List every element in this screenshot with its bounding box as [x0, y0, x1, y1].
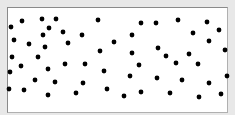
- data-point: [155, 76, 160, 81]
- data-point: [27, 42, 32, 47]
- data-point: [223, 48, 228, 53]
- data-point: [43, 45, 48, 50]
- data-point: [33, 78, 38, 83]
- data-point: [46, 67, 51, 72]
- data-point: [19, 64, 24, 69]
- data-point: [176, 18, 181, 23]
- data-point: [54, 17, 59, 22]
- data-point: [180, 78, 185, 83]
- data-point: [8, 70, 13, 75]
- data-point: [168, 91, 173, 96]
- data-point: [197, 95, 202, 100]
- data-point: [130, 51, 135, 56]
- data-point: [105, 87, 110, 92]
- data-point: [130, 33, 135, 38]
- data-point: [36, 55, 41, 60]
- data-point: [83, 62, 88, 67]
- data-point: [10, 55, 15, 60]
- data-point: [137, 63, 142, 68]
- data-point: [139, 21, 144, 26]
- data-point: [61, 30, 66, 35]
- data-point: [154, 21, 159, 26]
- data-point: [63, 62, 68, 67]
- data-point: [40, 17, 45, 22]
- data-point: [128, 74, 133, 79]
- data-point: [139, 90, 144, 95]
- data-point: [96, 18, 101, 23]
- data-point: [80, 33, 85, 38]
- data-point: [102, 69, 107, 74]
- data-point: [98, 49, 103, 54]
- data-point: [164, 54, 169, 59]
- data-point: [196, 62, 201, 67]
- data-point: [53, 80, 58, 85]
- data-point: [12, 38, 17, 43]
- data-point: [47, 26, 52, 31]
- data-point: [207, 81, 212, 86]
- data-point: [9, 25, 14, 30]
- data-point: [225, 74, 230, 79]
- data-point: [41, 33, 46, 38]
- data-point: [191, 31, 196, 36]
- data-point: [207, 39, 212, 44]
- data-point: [66, 41, 71, 46]
- scatter-plot: [0, 0, 235, 115]
- data-point: [156, 46, 161, 51]
- data-point: [112, 40, 117, 45]
- data-point: [217, 28, 222, 33]
- data-point: [122, 94, 127, 99]
- data-point: [81, 81, 86, 86]
- data-point: [7, 87, 12, 92]
- data-point: [22, 88, 27, 93]
- data-point: [219, 92, 224, 97]
- data-point: [74, 91, 79, 96]
- data-point: [46, 93, 51, 98]
- data-point: [174, 61, 179, 66]
- data-point: [20, 19, 25, 24]
- data-point: [205, 20, 210, 25]
- data-point: [187, 52, 192, 57]
